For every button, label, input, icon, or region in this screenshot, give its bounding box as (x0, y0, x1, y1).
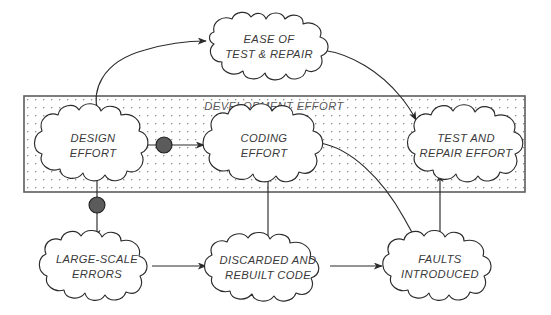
delay-marker-design-to-coding (156, 137, 172, 153)
node-test-and-repair-effort[interactable]: TEST AND REPAIR EFFORT (408, 105, 523, 182)
node-large-scale-errors[interactable]: LARGE-SCALE ERRORS (39, 230, 147, 300)
design-effort-label-line-2: EFFORT (70, 147, 117, 159)
large-scale-errors-cloud (39, 230, 147, 300)
ease-of-test-and-repair-label-line-1: EASE OF (244, 33, 296, 45)
discarded-and-rebuilt-code-label-line-2: REBUILT CODE (225, 269, 311, 281)
coding-effort-label-line-2: EFFORT (241, 147, 288, 159)
node-faults-introduced[interactable]: FAULTS INTRODUCED (383, 230, 491, 300)
discarded-and-rebuilt-code-cloud (205, 232, 319, 301)
faults-introduced-label-line-2: INTRODUCED (401, 268, 479, 280)
test-and-repair-effort-label-line-2: REPAIR EFFORT (419, 147, 513, 159)
node-ease-of-test-and-repair[interactable]: EASE OF TEST & REPAIR (210, 12, 329, 80)
diagram-canvas: DEVELOPMENT EFFORT EASE OF TEST & REPAIR (0, 0, 551, 315)
delay-marker-design-to-errors (89, 197, 105, 213)
design-effort-label-line-1: DESIGN (71, 132, 117, 144)
ease-of-test-and-repair-cloud (210, 12, 329, 80)
faults-introduced-cloud (383, 230, 491, 300)
faults-introduced-label-line-1: FAULTS (418, 253, 462, 265)
discarded-and-rebuilt-code-label-line-1: DISCARDED AND (220, 254, 317, 266)
node-design-effort[interactable]: DESIGN EFFORT (35, 104, 148, 181)
large-scale-errors-label-line-2: ERRORS (72, 268, 122, 280)
test-and-repair-effort-label-line-1: TEST AND (437, 132, 495, 144)
ease-of-test-and-repair-label-line-2: TEST & REPAIR (225, 48, 313, 60)
node-discarded-and-rebuilt-code[interactable]: DISCARDED AND REBUILT CODE (205, 232, 319, 301)
causal-loop-diagram: DEVELOPMENT EFFORT EASE OF TEST & REPAIR (0, 0, 551, 315)
coding-effort-label-line-1: CODING (241, 132, 288, 144)
large-scale-errors-label-line-1: LARGE-SCALE (56, 253, 138, 265)
node-coding-effort[interactable]: CODING EFFORT (203, 104, 323, 182)
